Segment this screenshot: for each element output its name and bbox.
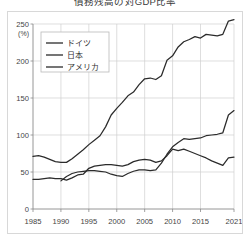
series-line <box>33 149 234 180</box>
x-axis-tick-label: 1995 <box>80 217 97 226</box>
chart-legend: ドイツ日本アメリカ <box>41 32 109 72</box>
x-axis-tick-label: 1990 <box>52 217 69 226</box>
x-axis-tick-label: 2000 <box>108 217 125 226</box>
y-axis-tick-label: 200 <box>16 57 29 66</box>
y-axis-unit-label: (%) <box>18 30 29 38</box>
chart-title: 債務残高の対GDP比率 <box>0 0 250 7</box>
y-axis-tick-label: 50 <box>21 168 29 177</box>
chart-svg: 050100150200250 198519901995200020052010… <box>8 12 242 233</box>
y-axis-tick-label: 0 <box>25 205 29 214</box>
y-axis-tick-label: 150 <box>16 94 29 103</box>
legend-label: アメリカ <box>67 63 99 72</box>
x-axis-ticks: 19851990199520002005201020152021 <box>25 209 242 226</box>
plot-frame: 050100150200250 198519901995200020052010… <box>7 11 243 234</box>
chart-figure: 債務残高の対GDP比率 050100150200250 198519901995… <box>0 0 250 241</box>
x-axis-tick-label: 1985 <box>25 217 42 226</box>
y-axis-tick-label: 250 <box>16 20 29 29</box>
y-axis-ticks: 050100150200250 <box>16 20 33 214</box>
legend-label: 日本 <box>67 50 83 60</box>
x-axis-tick-label: 2010 <box>164 217 181 226</box>
y-axis-unit: (%) <box>18 30 29 38</box>
y-axis-tick-label: 100 <box>16 131 29 140</box>
x-axis-tick-label: 2021 <box>226 217 242 226</box>
legend-label: ドイツ <box>67 39 91 48</box>
x-axis-tick-label: 2005 <box>136 217 153 226</box>
x-axis-tick-label: 2015 <box>192 217 209 226</box>
